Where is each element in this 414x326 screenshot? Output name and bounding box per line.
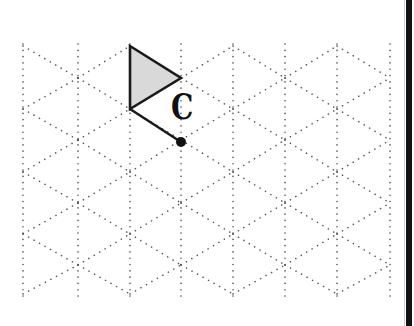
grid-line xyxy=(337,203,390,234)
point-c-dot xyxy=(176,137,186,147)
grid-line xyxy=(181,203,233,234)
grid-line xyxy=(337,234,390,265)
grid-line xyxy=(23,78,78,109)
grid-line xyxy=(23,265,78,294)
grid-line xyxy=(23,234,78,265)
grid-line xyxy=(23,46,78,78)
grid-line xyxy=(233,172,285,203)
grid-line xyxy=(233,265,285,294)
grid-line xyxy=(181,172,233,203)
grid-line xyxy=(233,78,285,109)
grid-line xyxy=(233,46,285,78)
grid-line xyxy=(130,172,181,203)
grid-line xyxy=(78,78,130,109)
grid-line xyxy=(78,234,130,265)
grid-line xyxy=(233,234,285,265)
grid-line xyxy=(285,78,337,109)
point-c-label: C xyxy=(171,88,193,124)
grid-line xyxy=(78,109,130,140)
grid-line xyxy=(285,46,337,78)
right-border xyxy=(406,0,412,326)
isometric-grid-diagram xyxy=(0,0,414,326)
grid-line xyxy=(130,234,181,265)
grid-line xyxy=(285,172,337,203)
grid-line xyxy=(78,203,130,234)
grid-line xyxy=(285,109,337,140)
grid-line xyxy=(233,140,285,172)
grid-line xyxy=(23,140,78,172)
grid-line xyxy=(181,46,233,78)
grid-line xyxy=(78,46,130,78)
grid-line xyxy=(285,203,337,234)
grid-line xyxy=(23,172,78,203)
grid-line xyxy=(337,78,390,109)
grid-line xyxy=(285,140,337,172)
grid-line xyxy=(181,140,233,172)
grid-line xyxy=(78,172,130,203)
grid-line xyxy=(181,234,233,265)
grid-line xyxy=(285,265,337,294)
grid-line xyxy=(23,109,78,140)
grid-line xyxy=(78,140,130,172)
dotted-triangle-grid xyxy=(23,44,390,297)
grid-line xyxy=(337,109,390,140)
grid-line xyxy=(337,46,390,78)
grid-line xyxy=(130,140,181,172)
grid-line xyxy=(337,140,390,172)
grid-line xyxy=(23,203,78,234)
grid-line xyxy=(181,265,233,294)
grid-line xyxy=(130,203,181,234)
grid-line xyxy=(233,109,285,140)
grid-line xyxy=(285,234,337,265)
grid-line xyxy=(78,265,130,294)
grid-line xyxy=(337,172,390,203)
right-border-shadow xyxy=(404,0,405,326)
grid-line xyxy=(233,203,285,234)
grid-line xyxy=(337,265,390,294)
grid-line xyxy=(130,265,181,294)
